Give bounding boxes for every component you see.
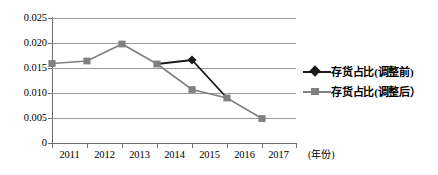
y-axis-tick-labels: 0.025 0.020 0.015 0.010 0.005 0 <box>0 0 47 175</box>
diamond-icon <box>309 65 320 76</box>
data-point-marker <box>153 61 160 68</box>
x-axis-title: (年份) <box>308 149 335 161</box>
chart-figure: 0.025 0.020 0.015 0.010 0.005 0 <box>0 0 438 175</box>
x-tick-mark <box>122 144 123 148</box>
x-tick-mark <box>262 144 263 148</box>
x-axis-tick-labels: 2011 2012 2013 2014 2015 2016 2017 (年份) <box>52 149 438 169</box>
x-tick-label: 2012 <box>87 149 122 161</box>
legend-sample-after-adjust <box>303 85 331 99</box>
x-tick-mark <box>227 144 228 148</box>
x-tick-mark <box>192 144 193 148</box>
series-line-after-adjust <box>52 44 262 119</box>
x-tick-mark <box>87 144 88 148</box>
legend-label-after-adjust: 存货占比(调整后） <box>331 86 421 99</box>
legend-sample-before-adjust <box>303 65 331 79</box>
data-point-marker <box>223 95 230 102</box>
x-tick-label: 2014 <box>157 149 192 161</box>
data-point-marker <box>118 41 125 48</box>
x-axis-line <box>52 143 297 144</box>
series-markers-after-adjust <box>48 41 265 122</box>
legend-item-after-adjust[interactable]: 存货占比(调整后） <box>303 82 438 102</box>
y-tick-label: 0 <box>42 138 47 149</box>
data-point-marker <box>188 86 195 93</box>
x-tick-label: 2017 <box>261 149 296 161</box>
y-tick-label: 0.015 <box>24 63 47 74</box>
y-tick-label: 0.005 <box>24 113 47 124</box>
data-point-marker <box>83 58 90 65</box>
x-tick-label: 2013 <box>122 149 157 161</box>
square-icon <box>311 88 319 95</box>
legend-item-before-adjust[interactable]: 存货占比(调整前) <box>303 62 438 82</box>
plot-area <box>52 18 296 143</box>
x-tick-label: 2016 <box>227 149 262 161</box>
y-tick-label: 0.010 <box>24 88 47 99</box>
data-point-marker <box>48 60 55 67</box>
series-layer <box>52 18 296 143</box>
x-tick-mark <box>52 144 53 148</box>
x-tick-label: 2011 <box>52 149 87 161</box>
x-tick-label: 2015 <box>192 149 227 161</box>
legend-label-before-adjust: 存货占比(调整前) <box>331 66 414 79</box>
x-tick-mark <box>157 144 158 148</box>
y-tick-label: 0.025 <box>24 13 47 24</box>
x-tick-mark <box>296 144 297 148</box>
data-point-marker <box>258 115 265 122</box>
y-tick-label: 0.020 <box>24 38 47 49</box>
chart-legend: 存货占比(调整前) 存货占比(调整后） <box>303 62 438 102</box>
